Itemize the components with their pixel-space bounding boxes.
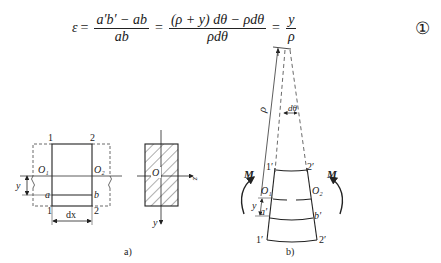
label-a-top-left: 1	[48, 132, 53, 143]
label-rho: ρ	[255, 106, 268, 114]
label-b-top-left: 1′	[266, 161, 273, 172]
label-moment-right: M	[326, 168, 338, 180]
label-a-bottom-right: 2	[94, 205, 99, 216]
label-a-dx: dx	[66, 209, 76, 220]
figure-a-cross-section	[137, 130, 193, 224]
label-b-b: b′	[314, 210, 322, 221]
beam-bending-diagram: 1 2 1 2 O₁ O₂ a b y dx O z y a)	[0, 0, 441, 263]
label-a-bottom-left: 1	[47, 205, 52, 216]
label-b-bottom-right: 2′	[319, 234, 326, 245]
label-a-a: a	[45, 189, 50, 200]
label-a-O2: O₂	[94, 164, 105, 175]
label-b-bottom-left: 1′	[256, 234, 263, 245]
label-b-y: y	[251, 200, 257, 211]
label-a-y: y	[15, 180, 21, 191]
label-a-top-right: 2	[90, 132, 95, 143]
label-a-b: b	[94, 189, 99, 200]
label-y-axis: y	[152, 217, 158, 228]
label-moment-left: M	[243, 168, 255, 180]
label-origin-O: O	[152, 167, 159, 178]
label-b-top-right: 2′	[307, 161, 314, 172]
label-z-axis: z	[191, 176, 201, 181]
caption-b: b)	[286, 246, 294, 258]
label-b-a: a′	[260, 206, 268, 217]
label-b-O2: O₂	[312, 185, 323, 196]
figure-b-element	[242, 47, 343, 242]
label-dtheta: dθ	[288, 103, 298, 113]
label-a-O1: O₁	[38, 164, 49, 175]
caption-a: a)	[124, 246, 132, 258]
label-b-O1: O₁	[261, 185, 272, 196]
